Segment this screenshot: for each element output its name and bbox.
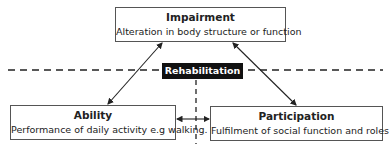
impairment-description: Alteration in body structure or function <box>116 26 285 38</box>
participation-box: Participation Fulfilment of social funct… <box>210 106 383 141</box>
impairment-box: Impairment Alteration in body structure … <box>115 7 286 42</box>
ability-description: Performance of daily activity e.g walkin… <box>11 124 175 136</box>
participation-description: Fulfilment of social function and roles <box>211 125 382 137</box>
rehabilitation-label: Rehabilitation <box>162 63 243 79</box>
arrow-impairment-ability <box>108 43 162 104</box>
ability-title: Ability <box>11 109 175 122</box>
participation-title: Participation <box>211 110 382 123</box>
ability-box: Ability Performance of daily activity e.… <box>10 105 176 140</box>
impairment-title: Impairment <box>116 11 285 24</box>
